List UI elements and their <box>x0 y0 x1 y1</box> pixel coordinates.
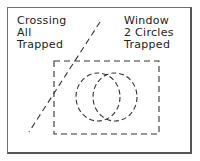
selection-diagram <box>0 0 200 161</box>
window-selection-rectangle <box>54 61 159 134</box>
crossing-selection-line <box>29 22 100 132</box>
circle-right <box>93 73 137 121</box>
circle-left <box>76 73 120 121</box>
